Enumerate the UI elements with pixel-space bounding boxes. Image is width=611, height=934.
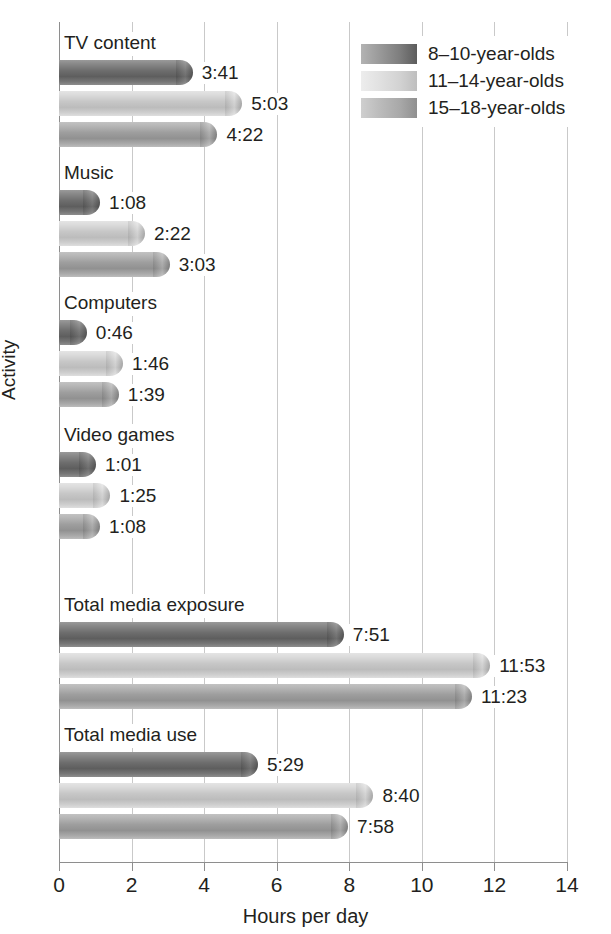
gridline-6 <box>277 22 278 862</box>
bar-value-label: 1:08 <box>104 192 149 214</box>
bar-row: 1:08 <box>59 190 567 215</box>
bar-value-label: 0:46 <box>91 322 136 344</box>
bar-row: 1:39 <box>59 382 567 407</box>
x-tick-label: 0 <box>53 874 65 895</box>
bar-value-label: 1:01 <box>100 454 145 476</box>
legend-swatch <box>361 44 417 64</box>
bar-value-label: 5:03 <box>246 93 291 115</box>
category-label: Video games <box>61 424 180 448</box>
bar-row: 1:01 <box>59 452 567 477</box>
bar-row: 5:29 <box>59 752 567 777</box>
legend-swatch <box>361 71 417 91</box>
bar <box>59 320 87 345</box>
bar <box>59 684 472 709</box>
x-tick-label: 6 <box>271 874 283 895</box>
bar-value-label: 8:40 <box>377 785 422 807</box>
legend-item: 11–14-year-olds <box>361 67 565 94</box>
legend-label: 15–18-year-olds <box>428 97 565 119</box>
bar-value-label: 7:58 <box>352 816 397 838</box>
x-tick <box>349 862 350 871</box>
gridline-4 <box>204 22 205 862</box>
x-tick <box>494 862 495 871</box>
x-tick <box>277 862 278 871</box>
bar <box>59 382 119 407</box>
x-tick-label: 8 <box>343 874 355 895</box>
bar-value-label: 7:51 <box>348 624 393 646</box>
bar-row: 7:51 <box>59 622 567 647</box>
bar-row: 1:08 <box>59 514 567 539</box>
category-label: Total media exposure <box>61 594 250 618</box>
bar-value-label: 2:22 <box>149 223 194 245</box>
plot-area: TV content3:415:034:22Music1:082:223:03C… <box>59 22 567 862</box>
bar-chart: Activity TV content3:415:034:22Music1:08… <box>0 0 611 934</box>
bar-value-label: 11:53 <box>494 655 548 677</box>
bar <box>59 622 344 647</box>
y-axis-label: Activity <box>0 340 20 400</box>
x-tick-label: 12 <box>483 874 506 895</box>
legend-item: 15–18-year-olds <box>361 94 565 121</box>
bar <box>59 252 170 277</box>
category-label: Computers <box>61 292 162 316</box>
bar-value-label: 1:25 <box>114 485 159 507</box>
legend-label: 11–14-year-olds <box>428 70 564 92</box>
bar <box>59 752 258 777</box>
gridline-0 <box>59 22 60 862</box>
bar-value-label: 3:03 <box>174 254 219 276</box>
x-tick <box>204 862 205 871</box>
bar-row: 2:22 <box>59 221 567 246</box>
bar-row: 8:40 <box>59 783 567 808</box>
bar <box>59 814 348 839</box>
x-tick <box>59 862 60 871</box>
category-label: Total media use <box>61 724 202 748</box>
bar-value-label: 11:23 <box>476 686 530 708</box>
bar <box>59 221 145 246</box>
x-axis-label: Hours per day <box>0 905 611 928</box>
category-label: TV content <box>61 32 161 56</box>
legend: 8–10-year-olds11–14-year-olds15–18-year-… <box>355 36 571 127</box>
bar <box>59 351 123 376</box>
x-tick-label: 14 <box>555 874 578 895</box>
bar <box>59 514 100 539</box>
bar-value-label: 3:41 <box>197 62 242 84</box>
x-tick <box>567 862 568 871</box>
bar <box>59 483 110 508</box>
x-tick-label: 10 <box>410 874 433 895</box>
bar <box>59 60 193 85</box>
bar-row: 0:46 <box>59 320 567 345</box>
bar-row: 3:03 <box>59 252 567 277</box>
gridline-12 <box>494 22 495 862</box>
legend-item: 8–10-year-olds <box>361 40 565 67</box>
bar <box>59 190 100 215</box>
bar <box>59 653 490 678</box>
bar-row: 1:25 <box>59 483 567 508</box>
x-tick-label: 4 <box>198 874 210 895</box>
bar <box>59 452 96 477</box>
x-tick <box>132 862 133 871</box>
bar <box>59 91 242 116</box>
legend-swatch <box>361 98 417 118</box>
bar <box>59 122 217 147</box>
bar-value-label: 4:22 <box>221 124 266 146</box>
gridline-10 <box>422 22 423 862</box>
bar <box>59 783 373 808</box>
bar-row: 11:53 <box>59 653 567 678</box>
bar-row: 11:23 <box>59 684 567 709</box>
bar-row: 7:58 <box>59 814 567 839</box>
bar-value-label: 1:39 <box>123 384 168 406</box>
bar-value-label: 1:08 <box>104 516 149 538</box>
x-tick-label: 2 <box>126 874 138 895</box>
gridline-14 <box>567 22 568 862</box>
legend-label: 8–10-year-olds <box>428 43 555 65</box>
bar-row: 1:46 <box>59 351 567 376</box>
bar-value-label: 5:29 <box>262 754 307 776</box>
bar-value-label: 1:46 <box>127 353 172 375</box>
x-axis-line <box>59 862 567 863</box>
gridline-8 <box>349 22 350 862</box>
x-tick <box>422 862 423 871</box>
category-label: Music <box>61 162 119 186</box>
